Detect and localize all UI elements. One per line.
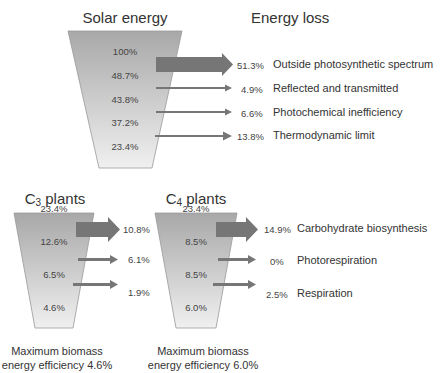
c4-level: 8.5% <box>185 269 207 280</box>
c3-level: 6.5% <box>43 269 65 280</box>
c4-loss-value: 2.5% <box>266 289 288 300</box>
c4-loss-value: 14.9% <box>264 224 291 235</box>
c4-level: 6.0% <box>185 302 207 313</box>
c4-caption-line1: Maximum biomass <box>148 344 258 358</box>
arrow-icon <box>155 132 232 141</box>
loss-value: 51.3% <box>237 60 264 71</box>
solar-energy-title: Solar energy <box>82 9 167 26</box>
arrow-icon <box>156 109 232 116</box>
solar-level: 48.7% <box>112 70 139 81</box>
c4-caption-line2: energy efficiency 6.0% <box>148 358 258 372</box>
loss-label: Photochemical inefficiency <box>273 106 402 118</box>
loss-value: 4.9% <box>241 84 263 95</box>
solar-level: 23.4% <box>112 141 139 152</box>
c4-loss-value: 0% <box>270 256 284 267</box>
loss-value: 13.8% <box>237 131 264 142</box>
c4-caption: Maximum biomass energy efficiency 6.0% <box>148 344 258 372</box>
c3-loss-value: 1.9% <box>128 287 150 298</box>
c4-loss-label: Carbohydrate biosynthesis <box>297 222 427 234</box>
loss-label: Thermodynamic limit <box>273 129 374 141</box>
solar-level: 100% <box>113 46 137 57</box>
solar-level: 37.2% <box>112 117 139 128</box>
c3-level: 23.4% <box>41 203 68 214</box>
loss-label: Outside photosynthetic spectrum <box>273 58 433 70</box>
c3-loss-value: 10.8% <box>123 224 150 235</box>
solar-level: 43.8% <box>112 94 139 105</box>
c3-loss-value: 6.1% <box>128 254 150 265</box>
c4-loss-label: Photorespiration <box>297 254 377 266</box>
c3-caption-line2: energy efficiency 4.6% <box>2 358 112 372</box>
c4-loss-label: Respiration <box>297 287 353 299</box>
c3-level: 12.6% <box>41 236 68 247</box>
c3-caption: Maximum biomass energy efficiency 4.6% <box>2 344 112 372</box>
c3-caption-line1: Maximum biomass <box>2 344 112 358</box>
loss-label: Reflected and transmitted <box>273 82 398 94</box>
c4-level: 23.4% <box>183 203 210 214</box>
c4-level: 8.5% <box>185 236 207 247</box>
diagram-graphics <box>0 0 444 373</box>
loss-value: 6.6% <box>241 108 263 119</box>
energy-loss-title: Energy loss <box>251 9 329 26</box>
c3-level: 4.6% <box>43 302 65 313</box>
